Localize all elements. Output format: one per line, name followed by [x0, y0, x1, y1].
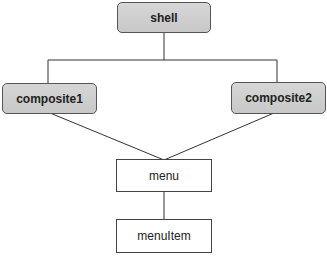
node-label: menu [149, 169, 179, 183]
node-menu: menu [116, 159, 212, 192]
node-label: shell [150, 11, 177, 25]
node-label: composite1 [16, 92, 83, 106]
node-composite2: composite2 [231, 82, 326, 114]
node-label: composite2 [245, 91, 312, 105]
edge-composite2-menu [164, 113, 274, 160]
node-composite1: composite1 [2, 83, 97, 114]
node-menuitem: menuItem [116, 219, 212, 253]
edge-composite1-menu [50, 113, 164, 160]
node-shell: shell [117, 2, 211, 33]
node-label: menuItem [137, 229, 190, 243]
